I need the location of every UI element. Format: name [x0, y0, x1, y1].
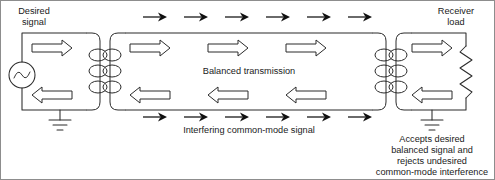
hollow-arrow-left-source: [32, 87, 72, 103]
receiver-primary-turn-2: [375, 65, 393, 77]
hollow-arrow-right-load: [412, 40, 452, 56]
receiver-load-label-line2: load: [447, 17, 464, 27]
receiver-secondary-frame: [396, 33, 412, 110]
receiver-primary-turn-1: [375, 49, 393, 61]
hollow-arrow-left-load: [412, 87, 452, 103]
secondary-turn-2: [103, 65, 121, 77]
solid-arrow-bottom-1: [143, 113, 167, 122]
solid-arrow-top-2: [184, 13, 208, 22]
secondary-winding-frame: [110, 33, 126, 110]
solid-arrow-top-3: [225, 13, 249, 22]
solid-arrow-bottom-2: [184, 113, 208, 122]
receiving-transformer: [372, 33, 412, 110]
sine-wave-icon: [14, 72, 30, 78]
receiver-load-label-line1: Receiver: [438, 6, 474, 16]
interfering-signal-label: Interfering common-mode signal: [183, 125, 315, 135]
solid-arrow-bottom-3: [225, 113, 249, 122]
receiver-secondary-turn-3: [389, 81, 407, 93]
primary-turn-2: [89, 65, 107, 77]
receiver-ground-icon: [421, 120, 443, 130]
solid-arrow-top-4: [266, 13, 290, 22]
hollow-arrow-right-2: [208, 40, 248, 56]
hollow-arrow-right-1: [130, 40, 170, 56]
common-mode-arrows-bottom: [143, 113, 372, 122]
solid-arrow-top-5: [307, 13, 331, 22]
receiver-primary-frame: [372, 33, 386, 110]
receiver-note-line3: rejects undesired: [397, 156, 467, 166]
solid-arrow-top-6: [348, 13, 372, 22]
primary-turn-1: [89, 49, 107, 61]
primary-winding-frame: [86, 33, 100, 110]
desired-signal-label-line2: signal: [22, 17, 46, 27]
receiver-note-line2: balanced signal and: [391, 145, 473, 155]
primary-turn-3: [89, 81, 107, 93]
hollow-arrow-left-2: [208, 87, 248, 103]
receiver-secondary-turn-1: [389, 49, 407, 61]
receiver-primary-turn-3: [375, 81, 393, 93]
hollow-arrow-right-source: [32, 40, 72, 56]
receiver-note-line1: Accepts desired: [399, 134, 464, 144]
receiver-secondary-turn-2: [389, 65, 407, 77]
solid-arrow-bottom-4: [266, 113, 290, 122]
secondary-turn-1: [103, 49, 121, 61]
diagram-canvas: Desired signal Receiver load Balanced tr…: [0, 0, 495, 180]
balanced-transmission-label: Balanced transmission: [203, 66, 295, 76]
source-ground-icon: [49, 120, 71, 130]
hollow-arrow-left-3: [286, 87, 326, 103]
balanced-transmission-diagram: Desired signal Receiver load Balanced tr…: [0, 0, 495, 180]
secondary-turn-3: [103, 81, 121, 93]
resistor: [460, 46, 472, 98]
solid-arrow-bottom-5: [307, 113, 331, 122]
solid-arrow-bottom-6: [348, 113, 372, 122]
receiver-note-line4: common-mode interference: [376, 167, 488, 177]
desired-signal-label-line1: Desired: [18, 6, 50, 16]
hollow-arrow-left-1: [130, 87, 170, 103]
sending-transformer: [86, 33, 126, 110]
common-mode-arrows-top: [143, 13, 372, 22]
hollow-arrow-right-3: [286, 40, 326, 56]
solid-arrow-top-1: [143, 13, 167, 22]
